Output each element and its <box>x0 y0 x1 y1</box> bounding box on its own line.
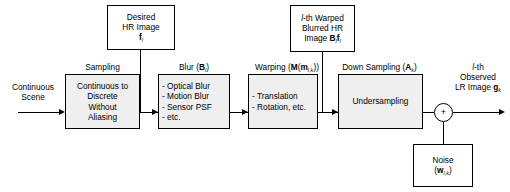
blur-box: - Optical Blur - Motion Blur - Sensor PS… <box>158 74 230 129</box>
sampling-box: Continuous to Discrete Without Aliasing <box>65 74 140 129</box>
noise-line-2: (wl,k) <box>434 165 452 176</box>
warping-line-1: - Translation <box>252 91 298 101</box>
connector-warped-hr-to-flow <box>322 52 323 112</box>
down-sampling-caption-text: Down Sampling ( <box>342 62 405 72</box>
arrow-sum-to-output-line <box>453 112 501 113</box>
desired-hr-image-symbol: fl <box>139 32 143 43</box>
blur-line-1: - Optical Blur <box>162 81 210 91</box>
warping-caption-text: Warping ( <box>255 62 291 72</box>
output-line1: l-th <box>447 62 509 72</box>
blur-caption-close: ) <box>206 62 209 72</box>
noise-close-paren: ) <box>449 165 452 175</box>
output-line3: LR Image gk <box>447 82 509 93</box>
warping-line-2: - Rotation, etc. <box>252 102 306 112</box>
output-line2: Observed <box>447 72 509 82</box>
B-subscript: l <box>336 38 337 44</box>
continuous-scene-line1: Continuous <box>3 82 63 92</box>
blur-line-3: - Sensor PSF <box>162 102 212 112</box>
continuous-scene-line2: Scene <box>3 92 63 102</box>
desired-hr-image-box: Desired HR Image fl <box>107 5 175 50</box>
block-diagram-canvas: Desired HR Image fl l-th Warped Blurred … <box>0 0 510 192</box>
blur-caption: Blur (Bl) <box>158 62 230 73</box>
output-line3-prefix: LR Image <box>455 82 493 92</box>
downsample-operator-subscript: k <box>411 67 414 73</box>
g-subscript: k <box>498 87 501 93</box>
motion-vector-subscript: l,k <box>308 67 314 73</box>
blur-line-2: - Motion Blur <box>162 91 209 101</box>
desired-hr-image-line2: HR Image <box>122 22 159 32</box>
warping-box: - Translation - Rotation, etc. <box>248 74 318 129</box>
blur-operator-subscript: l <box>205 67 206 73</box>
connector-noise-to-sum <box>443 122 444 144</box>
blur-line-4: - etc. <box>162 112 180 122</box>
sampling-line-2: Discrete <box>87 91 117 101</box>
sampling-caption-text: Sampling <box>85 62 120 72</box>
arrow-sum-to-output-head <box>499 109 505 115</box>
warped-hr-line3: Image Blfl <box>304 33 341 44</box>
sampling-caption: Sampling <box>65 62 140 72</box>
f-subscript-2: l <box>340 38 341 44</box>
noise-line-1: Noise <box>432 155 453 165</box>
f-subscript: l <box>142 37 143 43</box>
blur-operator-symbol: B <box>199 62 205 72</box>
motion-vector-symbol: m <box>300 62 307 72</box>
blur-caption-text: Blur ( <box>179 62 199 72</box>
warped-hr-line1: l-th Warped <box>301 13 344 23</box>
image-prefix: Image <box>304 33 329 43</box>
desired-hr-image-line1: Desired <box>127 12 156 22</box>
noise-box: Noise (wl,k) <box>413 144 473 187</box>
warped-hr-line2: Blurred HR <box>302 23 343 33</box>
plus-icon: + <box>441 108 446 117</box>
sampling-line-3: Without <box>88 102 116 112</box>
w-subscript: l,k <box>443 170 449 176</box>
down-sampling-box: Undersampling <box>338 74 423 129</box>
arrow-input-to-sampling-line <box>18 112 60 113</box>
sampling-line-4: Aliasing <box>88 112 117 122</box>
output-line1-rest: -th <box>474 62 484 72</box>
warped-blurred-hr-image-box: l-th Warped Blurred HR Image Blfl <box>290 5 355 52</box>
down-sampling-line-1: Undersampling <box>353 96 409 106</box>
arrow-downsampling-to-sum-line <box>423 112 434 113</box>
warping-caption: Warping (M(ml,k)) <box>242 62 332 73</box>
down-sampling-caption: Down Sampling (Ak) <box>337 62 422 73</box>
observed-lr-image-label: l-th Observed LR Image gk <box>447 62 509 94</box>
continuous-scene-label: Continuous Scene <box>3 82 63 102</box>
sampling-line-1: Continuous to <box>77 81 128 91</box>
warping-operator-symbol: M <box>291 62 298 72</box>
B-symbol: B <box>330 33 336 43</box>
connector-desired-hr-to-flow <box>140 50 141 112</box>
summation-node: + <box>434 103 453 122</box>
down-sampling-caption-close: ) <box>414 62 417 72</box>
warped-hr-line1-rest: -th Warped <box>303 13 344 23</box>
warping-caption-close: ) <box>316 62 319 72</box>
